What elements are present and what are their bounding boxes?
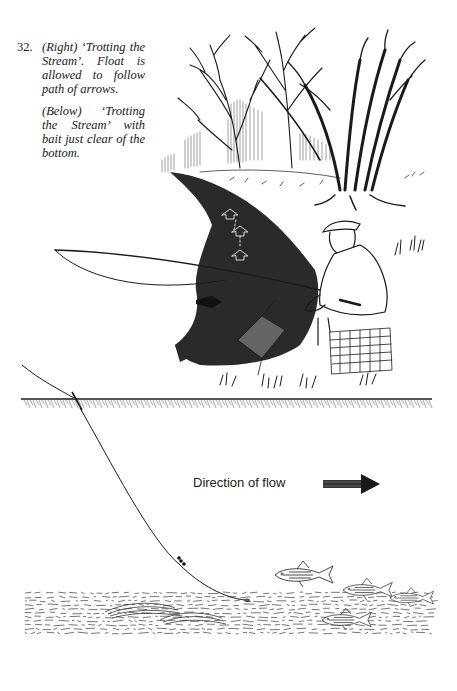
fish-group bbox=[275, 561, 434, 630]
fish bbox=[275, 561, 333, 587]
illustration bbox=[0, 0, 457, 691]
fish bbox=[390, 588, 434, 608]
flow-direction-label: Direction of flow bbox=[193, 475, 285, 490]
baited-hook bbox=[244, 598, 250, 601]
foreground-grass bbox=[220, 373, 376, 388]
fish bbox=[322, 608, 371, 630]
submerged-line bbox=[80, 408, 245, 600]
float bbox=[72, 392, 82, 410]
fishing-line bbox=[22, 365, 74, 398]
direction-arrow-icon bbox=[323, 474, 380, 494]
bottom-diagram bbox=[21, 365, 438, 634]
fish bbox=[343, 578, 392, 600]
wicker-basket bbox=[330, 328, 392, 374]
top-illustration bbox=[55, 28, 425, 388]
river-bed bbox=[25, 592, 438, 634]
bare-trees bbox=[178, 28, 425, 210]
surface-hatching bbox=[24, 400, 432, 408]
